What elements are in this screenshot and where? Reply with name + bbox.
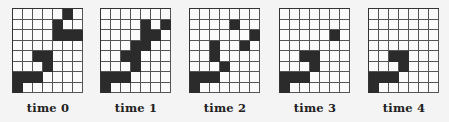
- empty-cell: [409, 41, 419, 52]
- filled-cell: [379, 72, 389, 83]
- empty-cell: [369, 30, 379, 41]
- empty-cell: [280, 30, 290, 41]
- empty-cell: [389, 20, 399, 31]
- empty-cell: [151, 20, 161, 31]
- empty-cell: [111, 51, 121, 62]
- label-time-3: time 3: [279, 101, 351, 115]
- empty-cell: [240, 83, 250, 94]
- empty-cell: [330, 83, 340, 94]
- empty-cell: [33, 20, 43, 31]
- empty-cell: [290, 51, 300, 62]
- empty-cell: [73, 62, 83, 73]
- filled-cell: [190, 83, 200, 94]
- empty-cell: [409, 51, 419, 62]
- filled-cell: [33, 51, 43, 62]
- empty-cell: [290, 30, 300, 41]
- empty-cell: [151, 72, 161, 83]
- empty-cell: [200, 83, 210, 94]
- filled-cell: [13, 72, 23, 83]
- empty-cell: [320, 20, 330, 31]
- empty-cell: [429, 41, 439, 52]
- filled-cell: [63, 30, 73, 41]
- empty-cell: [151, 62, 161, 73]
- empty-cell: [33, 30, 43, 41]
- empty-cell: [369, 9, 379, 20]
- empty-cell: [53, 83, 63, 94]
- filled-cell: [43, 62, 53, 73]
- empty-cell: [399, 20, 409, 31]
- empty-cell: [300, 30, 310, 41]
- filled-cell: [161, 20, 171, 31]
- empty-cell: [330, 72, 340, 83]
- grid-time-1: [100, 8, 171, 93]
- empty-cell: [220, 83, 230, 94]
- empty-cell: [250, 20, 260, 31]
- empty-cell: [369, 62, 379, 73]
- empty-cell: [369, 20, 379, 31]
- empty-cell: [121, 30, 131, 41]
- empty-cell: [330, 62, 340, 73]
- empty-cell: [399, 30, 409, 41]
- filled-cell: [190, 72, 200, 83]
- empty-cell: [33, 83, 43, 94]
- empty-cell: [101, 30, 111, 41]
- empty-cell: [121, 20, 131, 31]
- empty-cell: [230, 62, 240, 73]
- empty-cell: [300, 41, 310, 52]
- empty-cell: [220, 9, 230, 20]
- filled-cell: [151, 30, 161, 41]
- empty-cell: [379, 20, 389, 31]
- empty-cell: [250, 9, 260, 20]
- empty-cell: [141, 9, 151, 20]
- empty-cell: [240, 51, 250, 62]
- empty-cell: [151, 51, 161, 62]
- empty-cell: [43, 41, 53, 52]
- empty-cell: [220, 72, 230, 83]
- empty-cell: [43, 72, 53, 83]
- empty-cell: [379, 83, 389, 94]
- empty-cell: [379, 51, 389, 62]
- empty-cell: [23, 30, 33, 41]
- empty-cell: [230, 51, 240, 62]
- empty-cell: [419, 9, 429, 20]
- empty-cell: [379, 62, 389, 73]
- empty-cell: [141, 62, 151, 73]
- empty-cell: [340, 20, 350, 31]
- empty-cell: [161, 62, 171, 73]
- label-time-2: time 2: [189, 101, 261, 115]
- empty-cell: [399, 9, 409, 20]
- empty-cell: [389, 83, 399, 94]
- filled-cell: [131, 51, 141, 62]
- empty-cell: [23, 83, 33, 94]
- empty-cell: [63, 41, 73, 52]
- filled-cell: [13, 83, 23, 94]
- empty-cell: [290, 41, 300, 52]
- empty-cell: [111, 41, 121, 52]
- empty-cell: [161, 83, 171, 94]
- empty-cell: [63, 51, 73, 62]
- filled-cell: [141, 30, 151, 41]
- empty-cell: [419, 83, 429, 94]
- empty-cell: [53, 72, 63, 83]
- filled-cell: [43, 51, 53, 62]
- empty-cell: [310, 20, 320, 31]
- empty-cell: [190, 30, 200, 41]
- empty-cell: [280, 9, 290, 20]
- filled-cell: [230, 20, 240, 31]
- empty-cell: [200, 51, 210, 62]
- empty-cell: [310, 30, 320, 41]
- grid-time-2: [189, 8, 260, 93]
- grid-time-0: [12, 8, 83, 93]
- panel-time-0: time 0: [12, 8, 84, 93]
- empty-cell: [330, 20, 340, 31]
- label-time-4: time 4: [368, 101, 440, 115]
- empty-cell: [250, 83, 260, 94]
- empty-cell: [111, 30, 121, 41]
- grid-time-3: [279, 8, 350, 93]
- grid-time-4: [368, 8, 439, 93]
- empty-cell: [409, 9, 419, 20]
- empty-cell: [419, 41, 429, 52]
- filled-cell: [63, 9, 73, 20]
- filled-cell: [399, 51, 409, 62]
- empty-cell: [73, 51, 83, 62]
